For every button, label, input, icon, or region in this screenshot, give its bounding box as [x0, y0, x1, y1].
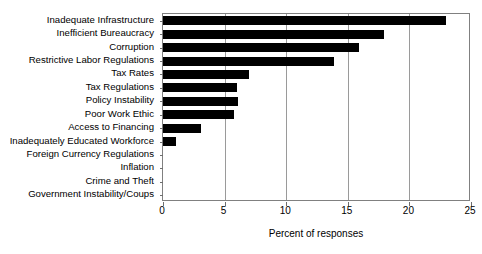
category-label: Restrictive Labor Regulations — [0, 55, 158, 65]
x-axis-tick-labels: 0510152025 — [0, 205, 482, 219]
plot-area — [162, 13, 470, 201]
bar — [163, 43, 359, 52]
category-label: Policy Instability — [0, 95, 158, 105]
category-label: Foreign Currency Regulations — [0, 149, 158, 159]
category-axis-tick — [160, 128, 163, 129]
x-axis-tick-label: 25 — [450, 205, 482, 217]
category-label: Tax Regulations — [0, 82, 158, 92]
category-axis-tick — [160, 48, 163, 49]
gridline — [225, 14, 226, 200]
bar — [163, 137, 176, 146]
category-label: Poor Work Ethic — [0, 109, 158, 119]
x-axis-title: Percent of responses — [162, 228, 470, 239]
bar — [163, 16, 446, 25]
category-label: Inadequate Infrastructure — [0, 15, 158, 25]
category-axis-tick — [160, 168, 163, 169]
bar — [163, 83, 237, 92]
category-axis-tick — [160, 74, 163, 75]
category-label: Inadequately Educated Workforce — [0, 136, 158, 146]
category-label: Government Instability/Coups — [0, 189, 158, 199]
x-axis-tick-label: 5 — [204, 205, 244, 217]
category-axis-tick — [160, 34, 163, 35]
x-axis-tick-label: 10 — [265, 205, 305, 217]
bar — [163, 124, 201, 133]
category-axis-tick — [160, 101, 163, 102]
category-axis-tick — [160, 195, 163, 196]
bar — [163, 110, 234, 119]
category-axis-tick — [160, 155, 163, 156]
category-axis-tick — [160, 88, 163, 89]
x-axis-tick-label: 20 — [388, 205, 428, 217]
bar — [163, 30, 384, 39]
category-axis-tick — [160, 115, 163, 116]
x-axis-tick-label: 15 — [327, 205, 367, 217]
bar — [163, 70, 249, 79]
gridline — [286, 14, 287, 200]
category-label: Crime and Theft — [0, 176, 158, 186]
category-axis-labels: Inadequate InfrastructureInefficient Bur… — [0, 13, 158, 201]
category-label: Access to Financing — [0, 122, 158, 132]
category-label: Tax Rates — [0, 68, 158, 78]
category-axis-tick — [160, 61, 163, 62]
gridline — [348, 14, 349, 200]
bar — [163, 57, 334, 66]
category-label: Inflation — [0, 162, 158, 172]
category-axis-tick — [160, 21, 163, 22]
category-axis-tick — [160, 182, 163, 183]
gridline — [409, 14, 410, 200]
category-label: Corruption — [0, 42, 158, 52]
category-label: Inefficient Bureaucracy — [0, 28, 158, 38]
x-axis-tick-label: 0 — [142, 205, 182, 217]
bar — [163, 97, 238, 106]
category-axis-tick — [160, 142, 163, 143]
chart-container: Inadequate InfrastructureInefficient Bur… — [0, 0, 482, 254]
